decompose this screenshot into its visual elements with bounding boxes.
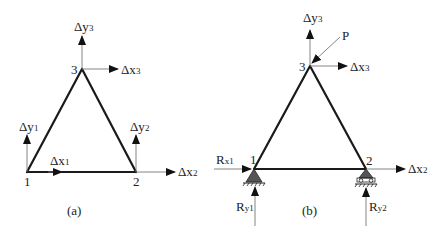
node-1-label: 1 (250, 152, 257, 167)
load-p-arrow (312, 37, 340, 63)
node-3-label: 3 (299, 59, 306, 74)
panel-a: Δy3 Δx3 Δy1 Δy2 Δx1 Δx2 1 2 3 (a) (19, 19, 197, 218)
panel-b: Δy3 Δx3 Δx2 P Rx1 Ry1 Ry2 1 2 3 (b) (214, 10, 427, 226)
rx1-label: Rx1 (216, 152, 234, 167)
dx3-label: Δx3 (121, 62, 141, 77)
dy2-label: Δy2 (130, 119, 149, 134)
dy1-label: Δy1 (19, 119, 38, 134)
load-p-label: P (342, 28, 349, 43)
panel-a-caption: (a) (67, 203, 81, 218)
member-3-2 (82, 69, 136, 172)
dx2-label: Δx2 (178, 164, 197, 179)
pin-support-icon (243, 169, 265, 186)
member-1-3 (254, 66, 310, 169)
node-1-label: 1 (24, 174, 31, 189)
roller-support-icon (355, 169, 377, 187)
dy3-label: Δy3 (74, 19, 94, 34)
member-3-2 (310, 66, 366, 169)
node-2-label: 2 (133, 174, 140, 189)
dx2-label: Δx2 (408, 161, 427, 176)
truss-diagram: Δy3 Δx3 Δy1 Δy2 Δx1 Δx2 1 2 3 (a) (0, 0, 444, 237)
dx1-label: Δx1 (50, 153, 69, 168)
node-2-label: 2 (366, 153, 373, 168)
ry1-label: Ry1 (236, 199, 254, 214)
node-3-label: 3 (71, 62, 78, 77)
dy3-label: Δy3 (303, 10, 323, 25)
panel-b-caption: (b) (302, 203, 317, 218)
ry2-label: Ry2 (369, 199, 387, 214)
dx3-label: Δx3 (350, 59, 370, 74)
